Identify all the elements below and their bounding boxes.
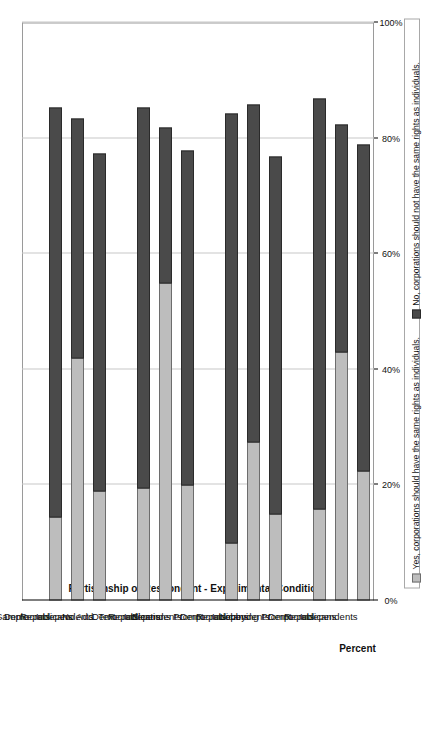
bar-segment-no bbox=[269, 156, 282, 514]
bar-segment-no bbox=[49, 107, 62, 517]
stacked-bar bbox=[93, 153, 106, 600]
tick-label-100%: 100% bbox=[374, 17, 408, 27]
legend-swatch-no-icon bbox=[412, 309, 421, 318]
tick-label-20%: 20% bbox=[374, 479, 408, 489]
bar-segment-yes bbox=[159, 282, 172, 600]
bar-segment-yes bbox=[247, 441, 260, 600]
chart-figure: Percent Partisanship of Respondent - Exp… bbox=[0, 0, 430, 743]
plot-frame-top bbox=[22, 22, 23, 600]
bar-segment-no bbox=[159, 127, 172, 283]
value-axis-baseline bbox=[22, 599, 374, 600]
plot-area bbox=[22, 22, 374, 600]
stacked-bar bbox=[181, 150, 194, 600]
stacked-bar bbox=[71, 118, 84, 600]
tick-label-0%: 0% bbox=[374, 595, 408, 605]
bar-segment-yes bbox=[137, 487, 150, 600]
stacked-bar bbox=[225, 113, 238, 600]
legend-entries: Yes, corporations should have the same r… bbox=[409, 22, 425, 584]
rotated-figure-canvas: Percent Partisanship of Respondent - Exp… bbox=[0, 0, 430, 743]
bar-segment-no bbox=[71, 118, 84, 358]
tick-label-80%: 80% bbox=[374, 133, 408, 143]
bar-segment-yes bbox=[181, 484, 194, 600]
bar-segment-no bbox=[335, 124, 348, 352]
legend-label-yes: Yes, corporations should have the same r… bbox=[409, 337, 423, 569]
tick-label-40%: 40% bbox=[374, 364, 408, 374]
bar-segment-yes bbox=[335, 351, 348, 600]
plot-frame-bottom bbox=[373, 22, 374, 600]
bar-segment-yes bbox=[225, 542, 238, 600]
bar-segment-no bbox=[181, 150, 194, 485]
bar-segment-yes bbox=[357, 470, 370, 600]
y-axis-title: Percent bbox=[328, 643, 388, 654]
bar-segment-yes bbox=[269, 513, 282, 600]
tick-label-60%: 60% bbox=[374, 248, 408, 258]
bar-segment-no bbox=[313, 98, 326, 508]
bar-segment-no bbox=[137, 107, 150, 488]
gridline-100% bbox=[22, 21, 374, 22]
stacked-bar bbox=[335, 124, 348, 600]
stacked-bar bbox=[313, 98, 326, 600]
category-label: Independents bbox=[300, 610, 358, 621]
legend-item-no: No, corporations should not have the sam… bbox=[409, 62, 423, 319]
bar-segment-no bbox=[247, 104, 260, 442]
stacked-bar bbox=[137, 107, 150, 600]
legend-label-no: No, corporations should not have the sam… bbox=[409, 62, 423, 306]
stacked-bar bbox=[357, 144, 370, 600]
stacked-bar bbox=[247, 104, 260, 600]
bar-segment-no bbox=[357, 144, 370, 471]
chart-legend: Yes, corporations should have the same r… bbox=[404, 18, 420, 588]
stacked-bar bbox=[269, 156, 282, 600]
bar-segment-no bbox=[225, 113, 238, 544]
bar-segment-yes bbox=[313, 508, 326, 600]
stacked-bar bbox=[49, 107, 62, 600]
bar-segment-yes bbox=[71, 357, 84, 600]
legend-item-yes: Yes, corporations should have the same r… bbox=[409, 337, 423, 582]
stacked-bar bbox=[159, 127, 172, 600]
bar-segment-yes bbox=[49, 516, 62, 600]
bar-segment-yes bbox=[93, 490, 106, 600]
bar-segment-no bbox=[93, 153, 106, 491]
legend-swatch-yes-icon bbox=[412, 573, 421, 582]
